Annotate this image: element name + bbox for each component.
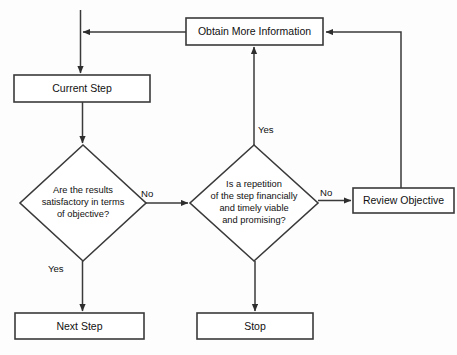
edge-review-to-obtain — [326, 32, 401, 188]
edge-label-no-left: No — [141, 188, 153, 199]
edge-label-no-right: No — [320, 187, 332, 198]
edge-label-yes-left: Yes — [48, 263, 64, 274]
node-current-step[interactable] — [14, 75, 150, 102]
node-results-satisfactory[interactable] — [20, 145, 146, 261]
node-obtain-more-information[interactable] — [186, 18, 323, 45]
node-review-objective[interactable] — [353, 188, 454, 213]
node-next-step[interactable] — [15, 313, 144, 339]
flowchart-connectors — [0, 0, 457, 355]
node-repetition-viable[interactable] — [190, 145, 318, 261]
node-stop[interactable] — [197, 313, 313, 339]
edge-label-yes-right: Yes — [258, 124, 274, 135]
flowchart-canvas: Obtain More Information Current Step Rev… — [0, 0, 457, 355]
page-bottom-artifact — [18, 347, 218, 355]
